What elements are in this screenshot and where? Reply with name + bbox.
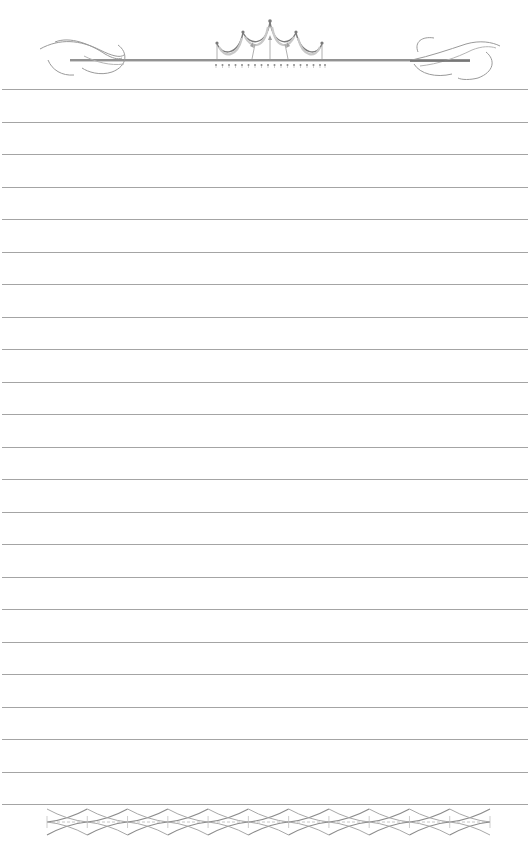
ruled-line — [2, 577, 528, 578]
ruled-line — [2, 512, 528, 513]
ruled-line — [2, 772, 528, 773]
lined-paper-page — [0, 0, 530, 864]
four-point-star-chain-icon — [0, 805, 530, 845]
ruled-line — [2, 219, 528, 220]
ruled-line — [2, 317, 528, 318]
ruled-line — [2, 739, 528, 740]
ruled-line — [2, 674, 528, 675]
ruled-line — [2, 609, 528, 610]
ruled-line — [2, 284, 528, 285]
ruled-line — [2, 154, 528, 155]
ruled-line — [2, 479, 528, 480]
ruled-line — [2, 349, 528, 350]
ruled-line — [2, 187, 528, 188]
ruled-line — [2, 544, 528, 545]
footer-border — [0, 805, 530, 845]
ruled-lines — [0, 0, 530, 864]
ruled-line — [2, 414, 528, 415]
ruled-line — [2, 382, 528, 383]
ruled-line — [2, 447, 528, 448]
ruled-line — [2, 707, 528, 708]
ruled-line — [2, 252, 528, 253]
ruled-line — [2, 642, 528, 643]
ruled-line — [2, 89, 528, 90]
ruled-line — [2, 122, 528, 123]
